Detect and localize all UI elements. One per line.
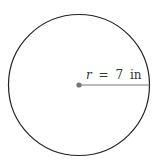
center-point xyxy=(76,82,81,87)
equals-sign: = xyxy=(99,68,109,82)
circle-diagram: r = 7 in xyxy=(0,0,157,164)
radius-label: r = 7 in xyxy=(86,68,142,82)
radius-variable: r xyxy=(86,68,93,82)
radius-value: 7 xyxy=(115,68,123,82)
radius-unit: in xyxy=(130,68,142,82)
